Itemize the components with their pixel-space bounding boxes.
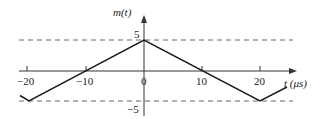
x-tick-label-2: 0 — [141, 76, 147, 87]
x-axis-arrow-icon — [289, 68, 297, 74]
y-axis-arrow-icon — [141, 15, 147, 23]
y-tick-label-5: 5 — [134, 29, 140, 40]
x-tick-label-4: 20 — [254, 76, 265, 87]
chart-canvas — [0, 0, 323, 119]
x-tick-label-1: −10 — [76, 76, 93, 87]
x-tick-label-0: −20 — [17, 76, 34, 87]
x-tick-label-3: 10 — [196, 76, 207, 87]
y-tick-label-minus5: −5 — [127, 104, 139, 115]
y-axis-label: m(t) — [113, 7, 131, 18]
x-axis-label: t (μs) — [284, 78, 307, 89]
